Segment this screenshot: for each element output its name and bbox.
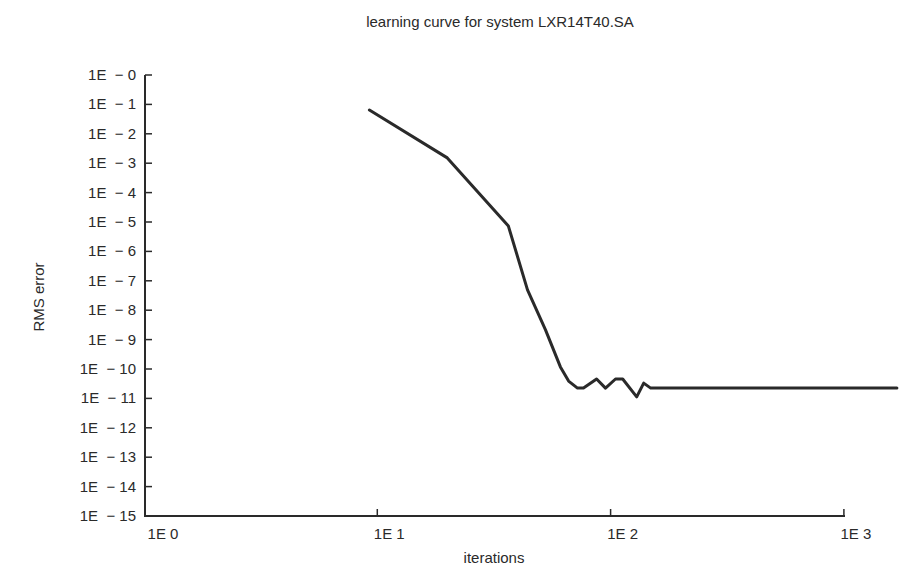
y-tick-label: 1E − 11 xyxy=(81,389,136,406)
y-tick-label: 1E − 6 xyxy=(88,242,136,259)
y-tick-label: 1E − 2 xyxy=(88,125,136,142)
y-tick-label: 1E − 7 xyxy=(88,272,136,289)
x-tick-label: 1E 1 xyxy=(374,525,405,542)
x-axis-label: iterations xyxy=(464,549,525,566)
y-axis-label: RMS error xyxy=(30,262,47,331)
y-tick-label: 1E − 1 xyxy=(88,95,136,112)
chart: learning curve for system LXR14T40.SA 1E… xyxy=(0,0,922,566)
y-axis-ticks: 1E − 01E − 11E − 21E − 31E − 41E − 51E −… xyxy=(80,66,152,524)
y-tick-label: 1E − 15 xyxy=(80,507,136,524)
y-tick-label: 1E − 9 xyxy=(88,331,136,348)
x-tick-label: 1E 3 xyxy=(840,525,871,542)
learning-curve-line xyxy=(369,110,897,397)
y-tick-label: 1E − 0 xyxy=(88,66,136,83)
chart-title: learning curve for system LXR14T40.SA xyxy=(366,13,634,30)
y-tick-label: 1E − 10 xyxy=(80,360,136,377)
y-tick-label: 1E − 13 xyxy=(80,448,136,465)
y-tick-label: 1E − 5 xyxy=(88,213,136,230)
y-tick-label: 1E − 8 xyxy=(88,301,136,318)
y-tick-label: 1E − 3 xyxy=(88,154,136,171)
y-tick-label: 1E − 4 xyxy=(88,184,136,201)
y-tick-label: 1E − 12 xyxy=(80,419,136,436)
x-axis-ticks: 1E 01E 11E 21E 3 xyxy=(148,509,872,542)
x-tick-label: 1E 0 xyxy=(148,525,179,542)
x-tick-label: 1E 2 xyxy=(607,525,638,542)
y-tick-label: 1E − 14 xyxy=(80,478,136,495)
